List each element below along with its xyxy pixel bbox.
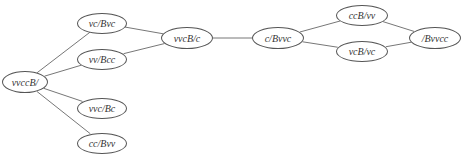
node-vvccB: vvccB/ [2, 71, 48, 93]
graph-edge [302, 42, 337, 47]
node-vcB-vc: vcB/vc [336, 41, 388, 62]
graph-edge [124, 44, 165, 54]
node-cc-Bvv: cc/Bvv [77, 133, 127, 154]
node-Bvvcc: /Bvvcc [409, 27, 461, 49]
node-c-Bvvc: c/Bvvc [252, 27, 304, 49]
node-vvc-Bc: vvc/Bc [77, 98, 127, 119]
state-graph-diagram: vvccB/ vc/Bvc vv/Bcc vvc/Bc cc/Bvv vvcB/… [0, 0, 466, 162]
graph-edge [44, 88, 83, 101]
node-vv-Bcc: vv/Bcc [77, 49, 127, 70]
graph-edge [300, 21, 341, 32]
graph-edge [125, 27, 163, 34]
graph-edge [45, 65, 82, 76]
graph-edges [0, 0, 466, 162]
graph-edge [382, 21, 414, 31]
graph-edge [386, 42, 411, 46]
node-vvcB-c: vvcB/c [161, 27, 213, 49]
node-vc-Bvc: vc/Bvc [77, 13, 127, 34]
node-ccB-vv: ccB/vv [336, 5, 388, 26]
